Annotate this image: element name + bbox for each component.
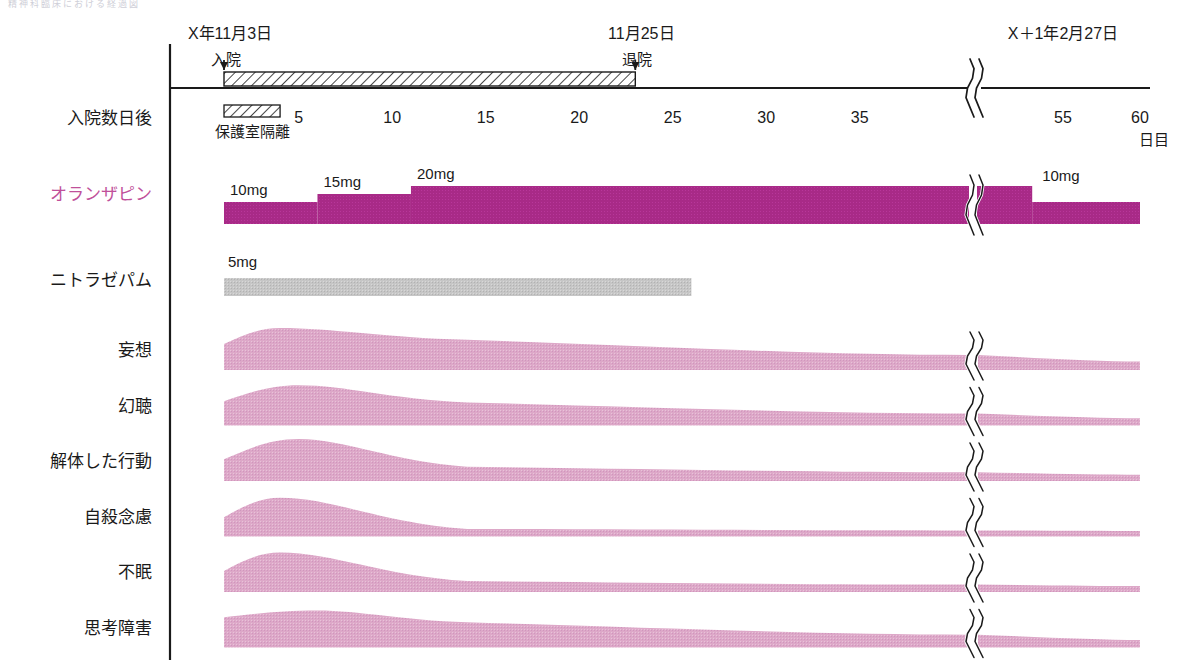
axis-tick-10: 10: [383, 110, 401, 126]
symptom-band-4-left: [224, 553, 968, 592]
axis-tick-60: 60: [1131, 110, 1149, 126]
axis-break-squiggle: [966, 388, 974, 436]
symptom-band-4-right: [978, 585, 1140, 592]
axis-break-squiggle: [966, 610, 974, 658]
admission-date-label: X年11月3日: [188, 26, 272, 42]
olanzapine-step-1: [317, 194, 410, 224]
olanzapine-step-2b: [977, 186, 1032, 224]
row-label-olanzapine: オランザピン: [50, 186, 152, 203]
olanzapine-dose-label-0: 10mg: [230, 182, 268, 197]
olanzapine-step-3: [1032, 202, 1140, 224]
nitrazepam-band-0: [224, 278, 691, 296]
symptom-band-2-left: [224, 439, 968, 481]
olanzapine-dose-label-2: 20mg: [417, 166, 455, 181]
axis-tick-5: 5: [294, 110, 303, 126]
row-label-symptom-2: 解体した行動: [50, 453, 152, 470]
olanzapine-step-2a: [411, 186, 969, 224]
symptom-band-5-left: [224, 611, 968, 648]
symptom-band-3-right: [978, 530, 1140, 536]
axis-break-squiggle: [966, 443, 974, 491]
axis-break-squiggle: [966, 499, 974, 547]
axis-tick-35: 35: [851, 110, 869, 126]
clinical-course-figure: 精神科臨床における経過図: [0, 0, 1179, 668]
row-label-symptom-1: 幻聴: [118, 398, 152, 415]
row-label-symptom-0: 妄想: [118, 342, 152, 359]
axis-tick-55: 55: [1054, 110, 1072, 126]
discharge-event-label: 退院: [622, 52, 652, 67]
row-label-symptom-4: 不眠: [118, 564, 152, 581]
row-label-symptom-5: 思考障害: [84, 620, 152, 637]
seclusion-bar: [224, 105, 280, 117]
symptom-band-2-right: [978, 472, 1140, 481]
admission-event-label: 入院: [211, 52, 241, 67]
axis-break-squiggle: [966, 332, 974, 380]
axis-break-squiggle: [975, 499, 983, 547]
timeline-graphics: [0, 0, 1179, 668]
axis-break-squiggle: [975, 443, 983, 491]
symptom-band-1-right: [978, 414, 1140, 426]
axis-break-squiggle: [966, 554, 974, 602]
row-label-symptom-3: 自殺念慮: [84, 509, 152, 526]
hospitalization-bar: [224, 72, 635, 86]
axis-break-squiggle: [966, 59, 974, 117]
symptom-band-1-left: [224, 385, 968, 425]
nitrazepam-dose-label-0: 5mg: [228, 254, 257, 269]
olanzapine-dose-label-1: 15mg: [323, 174, 361, 189]
followup-date-label: X＋1年2月27日: [1008, 26, 1118, 42]
axis-tick-25: 25: [664, 110, 682, 126]
symptom-band-0-left: [224, 328, 968, 370]
axis-break-squiggle: [975, 554, 983, 602]
axis-break-squiggle: [975, 610, 983, 658]
row-label-admission-days: 入院数日後: [67, 110, 152, 127]
axis-tick-20: 20: [570, 110, 588, 126]
olanzapine-step-0: [224, 202, 317, 224]
axis-tick-15: 15: [477, 110, 495, 126]
axis-break-squiggle: [966, 175, 974, 235]
olanzapine-dose-label-3: 10mg: [1042, 168, 1080, 183]
symptom-band-5-right: [978, 635, 1140, 648]
symptom-band-0-right: [978, 355, 1140, 370]
axis-unit-label: 日目: [1139, 132, 1169, 147]
symptom-band-3-left: [224, 498, 968, 537]
axis-break-squiggle: [975, 388, 983, 436]
discharge-date-label: 11月25日: [608, 26, 674, 42]
row-label-nitrazepam: ニトラゼパム: [50, 272, 152, 289]
axis-tick-30: 30: [757, 110, 775, 126]
seclusion-bar-caption: 保護室隔離: [215, 124, 290, 139]
